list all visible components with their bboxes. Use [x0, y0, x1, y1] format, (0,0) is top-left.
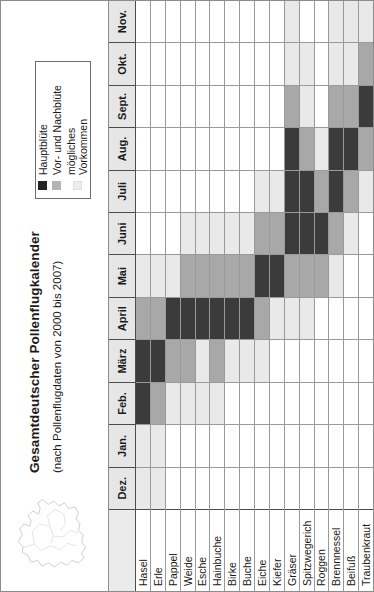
calendar-cell	[329, 212, 343, 254]
legend: Hauptblüte Vor- und Nachblüte mögliches …	[35, 61, 91, 199]
calendar-cell	[329, 467, 343, 509]
calendar-cell	[344, 127, 358, 169]
plant-month-cells	[359, 1, 373, 509]
calendar-cell	[300, 297, 314, 339]
calendar-cell	[240, 127, 254, 169]
calendar-cell	[136, 254, 150, 296]
calendar-cell	[359, 1, 373, 42]
calendar-cell	[344, 85, 358, 127]
calendar-cell	[240, 382, 254, 424]
calendar-cell	[210, 297, 224, 339]
plant-label: Weide	[181, 509, 195, 591]
calendar-cell	[225, 42, 239, 84]
calendar-cell	[181, 339, 195, 381]
calendar-cell	[255, 127, 269, 169]
calendar-cell	[359, 212, 373, 254]
legend-item: mögliches Vorkommen	[65, 70, 89, 190]
month-header-10: Okt.	[109, 42, 135, 84]
plant-label: Hasel	[136, 509, 150, 591]
plant-month-cells	[151, 1, 165, 509]
calendar-cell	[329, 339, 343, 381]
calendar-cell	[210, 424, 224, 466]
calendar-cell	[270, 212, 284, 254]
calendar-cell	[136, 1, 150, 42]
calendar-cell	[359, 339, 373, 381]
calendar-cell	[359, 42, 373, 84]
calendar-cell	[285, 170, 299, 212]
calendar-cell	[151, 85, 165, 127]
calendar-cell	[270, 467, 284, 509]
calendar-cell	[225, 424, 239, 466]
plant-label: Roggen	[315, 509, 329, 591]
calendar-cell	[210, 382, 224, 424]
calendar-cell	[270, 127, 284, 169]
calendar-cell	[285, 85, 299, 127]
calendar-cell	[285, 339, 299, 381]
calendar-cell	[359, 467, 373, 509]
calendar-cell	[329, 85, 343, 127]
calendar-cell	[240, 297, 254, 339]
calendar-cell	[210, 85, 224, 127]
calendar-cell	[166, 85, 180, 127]
month-header-row: Dez.Jan.Feb.MärzAprilMaiJuniJuliAug.Sept…	[109, 1, 136, 591]
legend-label: Vor- und Nachblüte	[51, 85, 63, 175]
month-header-6: Juni	[109, 212, 135, 254]
plant-month-cells	[270, 1, 284, 509]
table-row: Hasel	[136, 1, 151, 591]
calendar-cell	[136, 127, 150, 169]
pollen-calendar-figure: Gesamtdeutscher Pollenflugkalender (nach…	[0, 0, 374, 592]
legend-item: Vor- und Nachblüte	[51, 70, 63, 190]
calendar-cell	[285, 254, 299, 296]
calendar-cell	[315, 85, 329, 127]
calendar-cell	[315, 467, 329, 509]
calendar-cell	[285, 424, 299, 466]
plant-month-cells	[196, 1, 210, 509]
plant-label: Birke	[225, 509, 239, 591]
calendar-cell	[136, 170, 150, 212]
calendar-cell	[136, 297, 150, 339]
calendar-cell	[225, 339, 239, 381]
month-header-1: Jan.	[109, 424, 135, 466]
calendar-cell	[300, 467, 314, 509]
calendar-cell	[240, 42, 254, 84]
calendar-cell	[166, 42, 180, 84]
calendar-cell	[315, 1, 329, 42]
plant-month-cells	[240, 1, 254, 509]
calendar-cell	[329, 424, 343, 466]
table-row: Gräser	[285, 1, 300, 591]
calendar-cell	[166, 467, 180, 509]
calendar-cell	[285, 212, 299, 254]
plant-label: Esche	[196, 509, 210, 591]
calendar-cell	[181, 254, 195, 296]
calendar-cell	[285, 127, 299, 169]
calendar-cell	[166, 127, 180, 169]
plant-label: Buche	[240, 509, 254, 591]
calendar-cell	[225, 382, 239, 424]
calendar-cell	[344, 42, 358, 84]
calendar-cell	[136, 42, 150, 84]
calendar-cell	[315, 339, 329, 381]
calendar-cell	[300, 127, 314, 169]
table-row: Birke	[225, 1, 240, 591]
legend-item: Hauptblüte	[37, 70, 49, 190]
calendar-cell	[240, 1, 254, 42]
plant-label: Hainbuche	[210, 509, 224, 591]
month-header-11: Nov.	[109, 1, 135, 42]
calendar-cell	[210, 339, 224, 381]
calendar-cell	[270, 42, 284, 84]
legend-swatch-moegliches-vorkommen	[73, 181, 82, 190]
calendar-cell	[240, 424, 254, 466]
calendar-cell	[300, 1, 314, 42]
calendar-cell	[196, 85, 210, 127]
calendar-cell	[136, 339, 150, 381]
calendar-cell	[240, 212, 254, 254]
calendar-cell	[181, 382, 195, 424]
calendar-cell	[196, 170, 210, 212]
calendar-cell	[359, 297, 373, 339]
germany-outline-map-icon	[15, 491, 93, 573]
calendar-cell	[359, 170, 373, 212]
calendar-cell	[329, 42, 343, 84]
calendar-cell	[196, 212, 210, 254]
calendar-cell	[196, 339, 210, 381]
calendar-cell	[285, 297, 299, 339]
